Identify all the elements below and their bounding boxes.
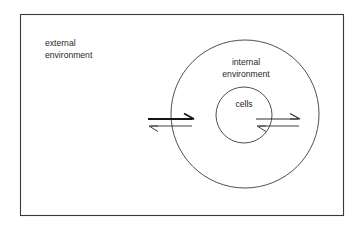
homeostasis-diagram: external environment internal environmen… bbox=[0, 0, 362, 229]
internal-environment-label-line2: environment bbox=[222, 69, 270, 79]
cells-label: cells bbox=[235, 99, 252, 109]
cells-label-line1: cells bbox=[235, 99, 252, 109]
external-environment-label-line1: external bbox=[45, 38, 76, 48]
external-environment-label-line2: environment bbox=[45, 50, 93, 60]
diagram-figure: external environment internal environmen… bbox=[0, 0, 362, 229]
canvas-background bbox=[0, 0, 362, 229]
internal-environment-label-line1: internal bbox=[232, 57, 260, 67]
